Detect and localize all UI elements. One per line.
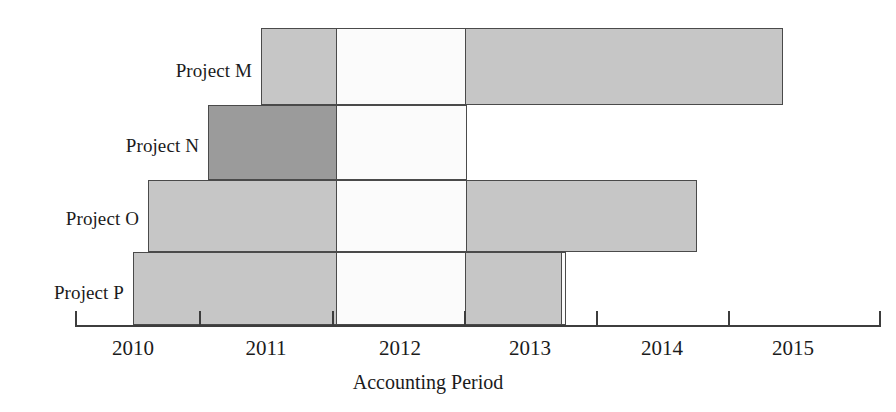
axis-tick-2011 xyxy=(332,311,334,327)
gantt-bar-project-n[interactable] xyxy=(208,105,467,180)
axis-tick-end xyxy=(879,311,881,327)
row-label-project-m: Project M xyxy=(176,61,252,80)
axis-tick-2013 xyxy=(596,311,598,327)
bar-segment xyxy=(466,253,562,324)
gantt-bar-project-p[interactable] xyxy=(133,252,566,325)
plot-area: Project M Project N Project O Project P xyxy=(0,0,896,412)
gantt-bar-project-m[interactable] xyxy=(261,28,783,105)
row-label-project-o: Project O xyxy=(66,209,139,228)
bar-segment xyxy=(467,181,696,251)
bar-segment xyxy=(149,181,337,251)
bar-segment xyxy=(337,106,466,179)
tick-label-2014: 2014 xyxy=(622,338,702,359)
axis-tick-start xyxy=(75,311,77,327)
bar-segment xyxy=(562,253,565,324)
tick-label-2012: 2012 xyxy=(360,338,440,359)
bar-segment xyxy=(134,253,337,324)
axis-tick-2012 xyxy=(464,311,466,327)
row-label-project-n: Project N xyxy=(126,136,199,155)
bar-segment xyxy=(209,106,337,179)
gantt-bar-project-o[interactable] xyxy=(148,180,697,252)
bar-segment xyxy=(337,29,467,104)
bar-segment xyxy=(337,253,466,324)
gantt-chart: Project M Project N Project O Project P xyxy=(0,0,896,412)
tick-label-2010: 2010 xyxy=(93,338,173,359)
bar-segment xyxy=(262,29,337,104)
bar-segment xyxy=(337,181,467,251)
tick-label-2013: 2013 xyxy=(490,338,570,359)
axis-tick-2010 xyxy=(199,311,201,327)
row-label-project-p: Project P xyxy=(54,283,124,302)
bar-segment xyxy=(466,29,782,104)
axis-tick-2014 xyxy=(728,311,730,327)
x-axis-line xyxy=(75,325,881,327)
tick-label-2015: 2015 xyxy=(753,338,833,359)
tick-label-2011: 2011 xyxy=(226,338,306,359)
x-axis-title: Accounting Period xyxy=(278,372,578,392)
